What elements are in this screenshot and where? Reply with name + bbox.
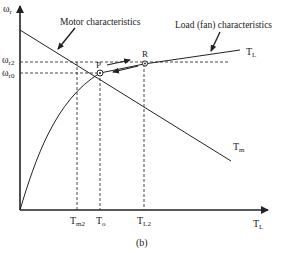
point-r-label: R — [142, 49, 148, 59]
motor-annotation-arrow-icon — [58, 28, 75, 49]
point-p-label: P — [96, 60, 101, 70]
load-characteristics-label: Load (fan) characteristics — [175, 20, 272, 31]
x-axis-label: TL — [253, 218, 263, 231]
y-tick-wr2: ωr2 — [2, 54, 15, 67]
x-tick-tm2: Tm2 — [70, 215, 86, 228]
arrow-r-to-p-icon — [113, 66, 138, 72]
figure-caption: (b) — [136, 237, 148, 249]
load-annotation-arrow-icon — [211, 32, 220, 51]
arrow-p-to-r-icon — [107, 60, 130, 65]
point-r — [142, 61, 147, 66]
motor-characteristics-label: Motor characteristics — [60, 17, 141, 27]
point-p — [97, 70, 103, 76]
x-tick-tl2: TL2 — [137, 215, 151, 228]
tm-curve-label: Tm — [233, 141, 245, 154]
y-tick-wr0: ωr0 — [2, 67, 15, 80]
y-axis-label: ωr — [3, 3, 13, 16]
motor-load-diagram: ωr ωr2 ωr0 Motor characteristics Load (f… — [0, 0, 283, 253]
motor-characteristic-line — [20, 30, 231, 161]
x-tick-to: To — [96, 215, 106, 228]
load-characteristic-curve — [20, 73, 100, 210]
tl-curve-label: TL — [246, 46, 256, 59]
